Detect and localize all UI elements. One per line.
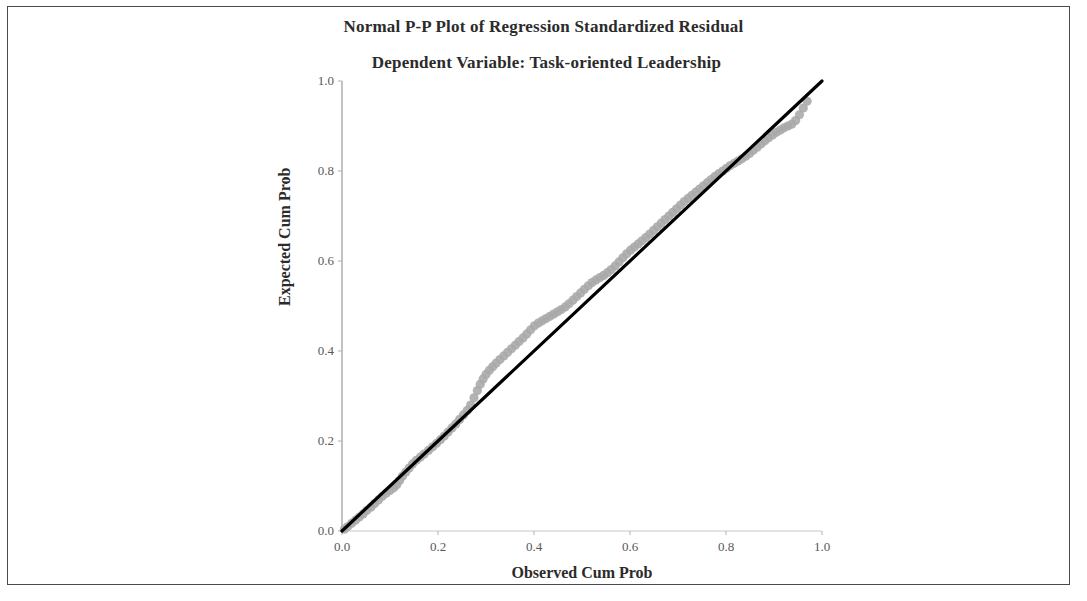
y-tick-label: 0.4	[304, 343, 334, 359]
x-tick-label: 1.0	[814, 539, 830, 555]
scatter-plot-svg	[342, 81, 822, 531]
y-tick-label: 1.0	[304, 73, 334, 89]
y-tick-label: 0.6	[304, 253, 334, 269]
y-tick-label: 0.2	[304, 433, 334, 449]
chart-canvas: Normal P-P Plot of Regression Standardiz…	[0, 0, 1087, 601]
reference-line	[342, 81, 822, 531]
chart-title: Normal P-P Plot of Regression Standardiz…	[0, 17, 1087, 37]
plot-area: 0.00.20.40.60.81.0 0.00.20.40.60.81.0	[342, 81, 822, 531]
x-tick-label: 0.6	[622, 539, 638, 555]
y-tick-label: 0.0	[304, 523, 334, 539]
x-tick-label: 0.0	[334, 539, 350, 555]
y-axis-title: Expected Cum Prob	[276, 168, 294, 306]
x-axis-title: Observed Cum Prob	[342, 564, 822, 582]
x-tick-label: 0.4	[526, 539, 542, 555]
y-tick-label: 0.8	[304, 163, 334, 179]
chart-subtitle: Dependent Variable: Task-oriented Leader…	[0, 53, 1087, 73]
x-tick-label: 0.2	[430, 539, 446, 555]
chart-page: Normal P-P Plot of Regression Standardiz…	[0, 0, 1087, 601]
x-tick-label: 0.8	[718, 539, 734, 555]
